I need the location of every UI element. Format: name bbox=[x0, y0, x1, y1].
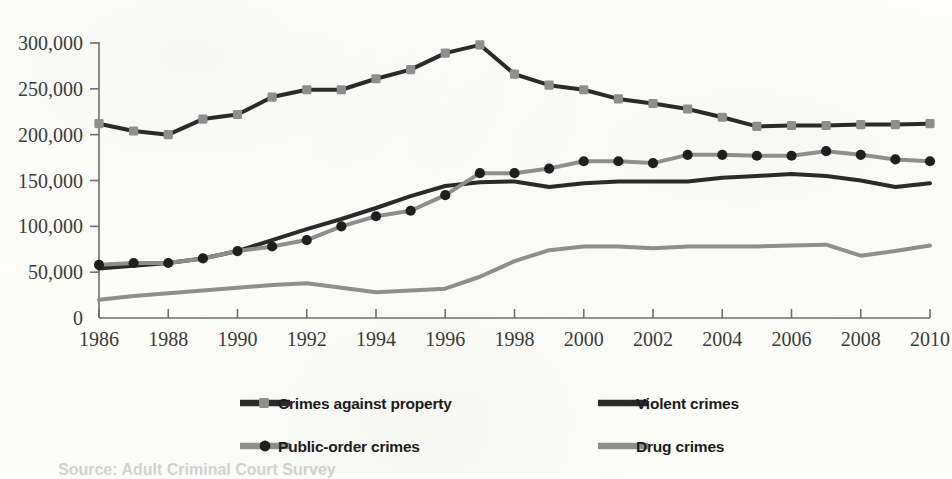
series-marker bbox=[683, 104, 692, 113]
series-marker bbox=[683, 150, 693, 160]
y-tick-label: 100,000 bbox=[18, 215, 83, 237]
series-marker bbox=[579, 85, 588, 94]
series-marker bbox=[94, 260, 104, 270]
x-tick-label: 1996 bbox=[425, 328, 465, 350]
x-tick-label: 2008 bbox=[841, 328, 881, 350]
series-marker bbox=[232, 246, 242, 256]
series-marker bbox=[648, 158, 658, 168]
legend-label: Public-order crimes bbox=[278, 438, 420, 455]
series-marker bbox=[925, 156, 935, 166]
x-tick-label: 2006 bbox=[772, 328, 812, 350]
series-marker bbox=[302, 85, 311, 94]
y-tick-label: 150,000 bbox=[18, 170, 83, 192]
x-tick-label: 1992 bbox=[287, 328, 327, 350]
y-tick-label: 250,000 bbox=[18, 78, 83, 100]
series-marker bbox=[94, 119, 103, 128]
x-tick-label: 2010 bbox=[910, 328, 950, 350]
series-marker bbox=[544, 163, 554, 173]
series-marker bbox=[268, 92, 277, 101]
series-marker bbox=[336, 221, 346, 231]
series-marker bbox=[267, 241, 277, 251]
series-marker bbox=[856, 150, 866, 160]
legend-item-3[interactable]: Drug crimes bbox=[598, 438, 724, 455]
y-tick-label: 200,000 bbox=[18, 124, 83, 146]
series-marker bbox=[337, 85, 346, 94]
x-tick-label: 1986 bbox=[79, 328, 119, 350]
chart-legend: Crimes against propertyViolent crimesPub… bbox=[0, 388, 952, 473]
series-marker bbox=[718, 113, 727, 122]
legend-label: Violent crimes bbox=[636, 395, 739, 412]
series-marker bbox=[198, 253, 208, 263]
series-0 bbox=[94, 40, 934, 139]
series-marker bbox=[475, 40, 484, 49]
series-marker bbox=[164, 130, 173, 139]
x-tick-label: 2000 bbox=[564, 328, 604, 350]
legend-label: Crimes against property bbox=[278, 395, 452, 412]
legend-item-0[interactable]: Crimes against property bbox=[240, 395, 452, 412]
legend-label: Drug crimes bbox=[636, 438, 724, 455]
series-marker bbox=[198, 114, 207, 123]
series-marker bbox=[925, 119, 934, 128]
x-tick-label: 1990 bbox=[218, 328, 258, 350]
series-marker bbox=[163, 258, 173, 268]
y-tick-label: 0 bbox=[73, 307, 83, 329]
chart-canvas: 050,000100,000150,000200,000250,000300,0… bbox=[0, 0, 952, 400]
series-marker bbox=[510, 70, 519, 79]
x-tick-label: 2002 bbox=[633, 328, 673, 350]
series-marker bbox=[302, 235, 312, 245]
y-tick-label: 50,000 bbox=[28, 261, 83, 283]
x-tick-label: 1998 bbox=[495, 328, 535, 350]
series-marker bbox=[648, 99, 657, 108]
series-marker bbox=[717, 150, 727, 160]
series-marker bbox=[786, 151, 796, 161]
series-marker bbox=[579, 156, 589, 166]
series-marker bbox=[890, 154, 900, 164]
legend-marker bbox=[259, 398, 269, 408]
series-marker bbox=[891, 120, 900, 129]
series-2 bbox=[94, 146, 935, 270]
series-marker bbox=[787, 121, 796, 130]
series-marker bbox=[440, 190, 450, 200]
series-line bbox=[99, 45, 930, 135]
series-marker bbox=[614, 94, 623, 103]
x-tick-label: 1988 bbox=[148, 328, 188, 350]
series-marker bbox=[475, 168, 485, 178]
series-marker bbox=[406, 65, 415, 74]
series-marker bbox=[129, 258, 139, 268]
series-marker bbox=[233, 110, 242, 119]
series-marker bbox=[406, 206, 416, 216]
series-marker bbox=[441, 48, 450, 57]
series-marker bbox=[752, 122, 761, 131]
y-tick-label: 300,000 bbox=[18, 32, 83, 54]
series-marker bbox=[752, 151, 762, 161]
legend-item-1[interactable]: Violent crimes bbox=[598, 395, 739, 412]
series-marker bbox=[821, 146, 831, 156]
x-tick-label: 1994 bbox=[356, 328, 396, 350]
series-marker bbox=[509, 168, 519, 178]
series-marker bbox=[545, 81, 554, 90]
legend-marker bbox=[260, 441, 271, 452]
series-marker bbox=[371, 74, 380, 83]
series-marker bbox=[856, 120, 865, 129]
series-marker bbox=[822, 121, 831, 130]
x-tick-label: 2004 bbox=[702, 328, 742, 350]
legend-item-2[interactable]: Public-order crimes bbox=[240, 438, 420, 455]
series-marker bbox=[613, 156, 623, 166]
series-marker bbox=[129, 126, 138, 135]
series-marker bbox=[371, 211, 381, 221]
